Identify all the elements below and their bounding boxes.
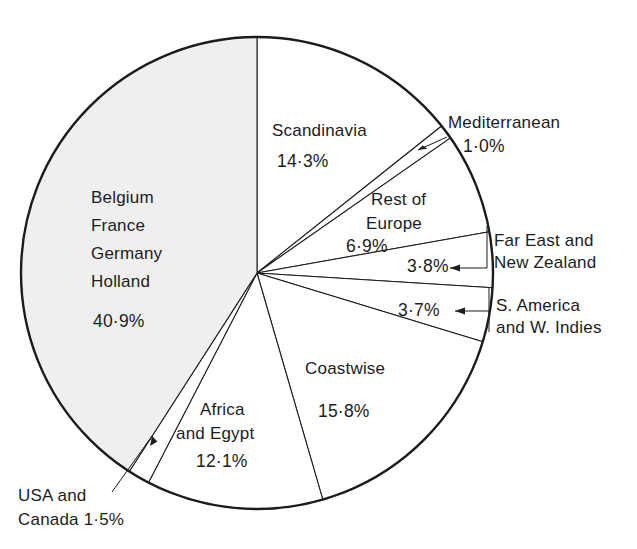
value-coastwise: 15·8% [318, 401, 370, 421]
label-coastwise: Coastwise [305, 359, 385, 378]
label-s-america-line1: S. America [496, 296, 581, 315]
pie-chart-svg: Belgium France Germany Holland 40·9% Sca… [0, 0, 637, 549]
label-belgium-line2: France [91, 216, 145, 235]
label-belgium-line1: Belgium [91, 188, 154, 207]
value-mediterranean: 1·0% [463, 136, 505, 156]
label-usa-canada-line2: Canada 1·5% [18, 510, 124, 529]
value-africa: 12·1% [196, 451, 248, 471]
label-usa-canada-line1: USA and [18, 486, 87, 505]
label-rest-of-europe-line2: Europe [366, 214, 422, 233]
label-far-east-line1: Far East and [494, 231, 594, 250]
label-mediterranean: Mediterranean [448, 113, 560, 132]
value-rest-of-europe: 6·9% [346, 236, 388, 256]
value-scandinavia: 14·3% [277, 151, 329, 171]
label-belgium-line4: Holland [91, 272, 150, 291]
label-africa-line2: and Egypt [176, 424, 254, 443]
label-belgium-line3: Germany [91, 244, 163, 263]
label-africa-line1: Africa [200, 400, 245, 419]
value-far-east: 3·8% [407, 256, 449, 276]
value-belgium: 40·9% [93, 311, 145, 331]
label-far-east-line2: New Zealand [494, 253, 596, 272]
label-rest-of-europe-line1: Rest of [371, 190, 426, 209]
label-s-america-line2: and W. Indies [496, 318, 602, 337]
value-s-america: 3·7% [398, 300, 440, 320]
pie-chart-figure: Belgium France Germany Holland 40·9% Sca… [0, 0, 637, 549]
label-scandinavia: Scandinavia [272, 121, 367, 140]
